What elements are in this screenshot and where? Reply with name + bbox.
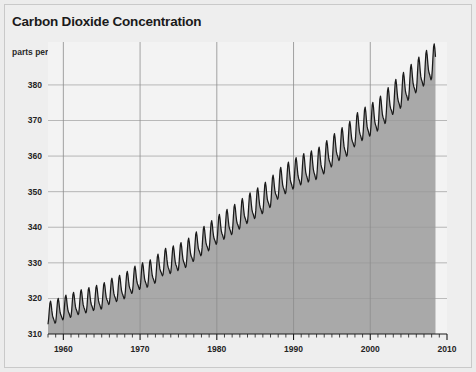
y-axis-tick-label: 330 [28,258,42,268]
plot-area: 3103203303403503603703801960197019801990… [0,0,476,372]
y-axis-tick-label: 360 [28,151,42,161]
y-axis-tick-label: 340 [28,222,42,232]
chart-figure: Carbon Dioxide Concentration parts per m… [0,0,476,372]
x-axis-tick-label: 1990 [284,344,303,354]
co2-area-chart: 3103203303403503603703801960197019801990… [0,0,476,372]
x-axis-tick-label: 1960 [54,344,73,354]
y-axis-tick-label: 380 [28,80,42,90]
y-axis-tick-label: 370 [28,115,42,125]
x-axis-tick-label: 2010 [438,344,457,354]
x-axis-tick-label: 1980 [207,344,226,354]
y-axis-tick-label: 350 [28,187,42,197]
x-axis-tick-label: 1970 [131,344,150,354]
y-axis-tick-label: 320 [28,293,42,303]
x-axis-tick-label: 2000 [361,344,380,354]
y-axis-tick-label: 310 [28,329,42,339]
